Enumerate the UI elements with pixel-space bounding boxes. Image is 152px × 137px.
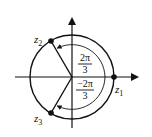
- angle-positive-denominator: 3: [83, 64, 88, 75]
- angle-negative-denominator: 3: [83, 90, 88, 101]
- angle-negative-numerator: −2π: [77, 78, 93, 89]
- point-z3: [48, 110, 54, 116]
- point-z1: [111, 74, 117, 80]
- point-z2: [48, 38, 54, 44]
- label-z3: z3: [33, 112, 42, 127]
- roots-of-unity-diagram: z2 z1 z3 2π 3 −2π 3: [0, 0, 152, 137]
- label-z2: z2: [33, 33, 42, 48]
- label-z1: z1: [114, 83, 123, 98]
- angle-positive-numerator: 2π: [80, 52, 90, 63]
